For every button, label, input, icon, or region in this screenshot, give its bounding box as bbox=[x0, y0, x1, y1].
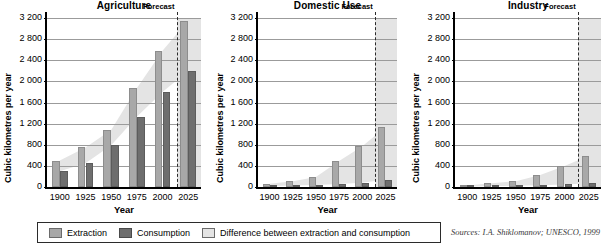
gridline bbox=[455, 81, 601, 82]
legend-item-extraction: Extraction bbox=[49, 228, 107, 238]
bar-consumption-2025 bbox=[188, 71, 196, 187]
y-tick-label: 400 bbox=[413, 161, 450, 170]
gridline bbox=[455, 166, 601, 167]
y-tick-label: 3 200 bbox=[413, 13, 450, 22]
y-axis-line bbox=[453, 12, 455, 189]
gridline bbox=[455, 60, 601, 61]
forecast-divider-line bbox=[578, 12, 579, 187]
x-tick-label: 2025 bbox=[374, 192, 397, 202]
y-tick-label: 2 400 bbox=[5, 55, 42, 64]
gridline bbox=[258, 145, 397, 146]
bar-extraction-1975 bbox=[533, 175, 540, 187]
y-tick-label: 1 600 bbox=[413, 98, 450, 107]
bar-consumption-2025 bbox=[385, 180, 392, 187]
x-tick-label: 1950 bbox=[98, 192, 124, 202]
x-tick-label: 2000 bbox=[552, 192, 576, 202]
legend-label-difference: Difference between extraction and consum… bbox=[220, 228, 410, 238]
gridline bbox=[455, 39, 601, 40]
x-tick-label: 2025 bbox=[577, 192, 601, 202]
x-tick-label: 1900 bbox=[455, 192, 479, 202]
y-tick-label: 1 200 bbox=[413, 119, 450, 128]
y-tick-label: 800 bbox=[5, 140, 42, 149]
forecast-divider-line bbox=[375, 12, 376, 187]
y-tick-label: 1 600 bbox=[216, 98, 253, 107]
x-tick-label: 1975 bbox=[124, 192, 150, 202]
chart-panel-industry: IndustryCubic kilometres per year0400800… bbox=[408, 0, 613, 215]
bar-extraction-1975 bbox=[332, 161, 339, 187]
bar-extraction-1950 bbox=[309, 177, 316, 187]
swatch-consumption-icon bbox=[119, 228, 132, 238]
chart-legend: Extraction Consumption Difference betwee… bbox=[37, 222, 441, 243]
legend-label-extraction: Extraction bbox=[67, 228, 107, 238]
bar-extraction-1925 bbox=[78, 147, 86, 187]
x-tick-label: 1975 bbox=[528, 192, 552, 202]
bar-extraction-1900 bbox=[52, 161, 60, 187]
bar-consumption-1900 bbox=[60, 171, 68, 187]
y-tick-label: 2 000 bbox=[413, 76, 450, 85]
gridline bbox=[258, 18, 397, 19]
y-tick-label: 3 200 bbox=[216, 13, 253, 22]
x-tick-label: 2000 bbox=[150, 192, 176, 202]
y-tick-label: 2 800 bbox=[5, 34, 42, 43]
y-tick-label: 0 bbox=[413, 182, 450, 191]
chart-panels: AgricultureCubic kilometres per year0400… bbox=[0, 0, 613, 215]
bar-consumption-1925 bbox=[86, 163, 94, 187]
bar-extraction-2000 bbox=[355, 146, 362, 187]
forecast-label: Forecast bbox=[143, 2, 174, 11]
forecast-divider-line bbox=[177, 12, 178, 187]
y-tick-label: 800 bbox=[413, 140, 450, 149]
y-tick-label: 1 200 bbox=[5, 119, 42, 128]
bar-consumption-1950 bbox=[111, 145, 119, 187]
bar-consumption-2000 bbox=[163, 92, 171, 187]
bar-extraction-1975 bbox=[129, 88, 137, 187]
y-tick-label: 400 bbox=[216, 161, 253, 170]
legend-item-consumption: Consumption bbox=[119, 228, 190, 238]
x-axis-line bbox=[256, 187, 397, 189]
y-tick-label: 2 000 bbox=[5, 76, 42, 85]
forecast-label: Forecast bbox=[544, 2, 575, 11]
y-tick-label: 2 800 bbox=[216, 34, 253, 43]
x-tick-label: 2000 bbox=[351, 192, 374, 202]
y-axis-line bbox=[256, 12, 258, 189]
bar-consumption-1975 bbox=[137, 117, 145, 187]
y-axis-line bbox=[45, 12, 47, 189]
forecast-label: Forecast bbox=[341, 2, 372, 11]
bar-extraction-2025 bbox=[582, 156, 589, 187]
gridline bbox=[455, 145, 601, 146]
gridline bbox=[258, 39, 397, 40]
x-tick-label: 1950 bbox=[504, 192, 528, 202]
gridline bbox=[258, 60, 397, 61]
chart-panel-domestic-use: Domestic UseCubic kilometres per year040… bbox=[212, 0, 408, 215]
source-note: Sources: I.A. Shiklomanov; UNESCO, 1999 bbox=[451, 227, 600, 237]
x-tick-label: 1975 bbox=[328, 192, 351, 202]
gridline bbox=[258, 103, 397, 104]
bar-extraction-2025 bbox=[378, 127, 385, 187]
gridline bbox=[258, 166, 397, 167]
x-tick-label: 1925 bbox=[73, 192, 99, 202]
x-tick-label: 2025 bbox=[175, 192, 201, 202]
legend-item-difference: Difference between extraction and consum… bbox=[202, 228, 410, 238]
y-tick-label: 2 000 bbox=[216, 76, 253, 85]
legend-label-consumption: Consumption bbox=[137, 228, 190, 238]
y-tick-label: 3 200 bbox=[5, 13, 42, 22]
y-tick-label: 800 bbox=[216, 140, 253, 149]
bar-extraction-2000 bbox=[557, 166, 564, 187]
chart-panel-agriculture: AgricultureCubic kilometres per year0400… bbox=[0, 0, 212, 215]
y-tick-label: 2 400 bbox=[216, 55, 253, 64]
x-axis-line bbox=[453, 187, 601, 189]
bar-extraction-1950 bbox=[103, 130, 111, 187]
x-axis-label: Year bbox=[258, 204, 397, 215]
gridline bbox=[258, 124, 397, 125]
x-axis-line bbox=[45, 187, 201, 189]
bar-extraction-2025 bbox=[180, 21, 188, 187]
y-tick-label: 0 bbox=[216, 182, 253, 191]
x-tick-label: 1900 bbox=[258, 192, 281, 202]
bar-extraction-2000 bbox=[155, 51, 163, 187]
chart-figure: AgricultureCubic kilometres per year0400… bbox=[0, 0, 613, 248]
gridline bbox=[455, 103, 601, 104]
y-tick-label: 1 600 bbox=[5, 98, 42, 107]
x-tick-label: 1950 bbox=[304, 192, 327, 202]
x-tick-label: 1900 bbox=[47, 192, 73, 202]
x-axis-label: Year bbox=[47, 204, 201, 215]
y-tick-label: 400 bbox=[5, 161, 42, 170]
